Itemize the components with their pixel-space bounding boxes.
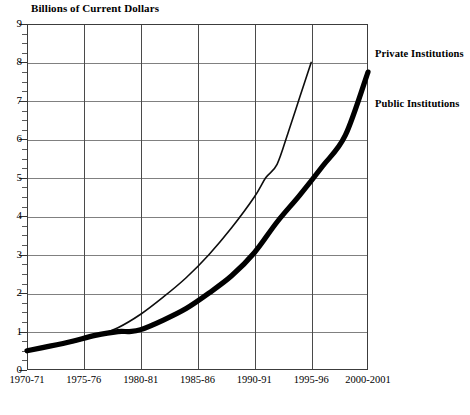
series-label-public-institutions: Public Institutions — [375, 98, 459, 109]
chart-container: Billions of Current Dollars 0123456789 1… — [0, 0, 470, 415]
x-axis-label: 1985-86 — [180, 374, 215, 385]
series-line-private-institutions — [27, 62, 311, 350]
x-axis-label: 2000-2001 — [345, 374, 391, 385]
y-axis-label: 1 — [3, 326, 22, 337]
y-axis-label: 7 — [3, 95, 22, 106]
x-axis-label: 1980-81 — [123, 374, 158, 385]
y-axis-label: 4 — [3, 210, 22, 221]
y-axis-label: 6 — [3, 133, 22, 144]
x-axis-label: 1970-71 — [10, 374, 45, 385]
y-axis-label: 8 — [3, 56, 22, 67]
x-axis-label: 1975-76 — [66, 374, 101, 385]
series-label-private-institutions: Private Institutions — [375, 48, 464, 59]
series-plot — [27, 24, 368, 370]
y-axis-label: 5 — [3, 172, 22, 183]
y-axis-label: 3 — [3, 249, 22, 260]
x-axis-label: 1990-91 — [237, 374, 272, 385]
y-axis-label: 9 — [3, 18, 22, 29]
series-line-public-institutions — [27, 72, 368, 351]
x-axis-label: 1995-96 — [294, 374, 329, 385]
y-axis-label: 2 — [3, 287, 22, 298]
